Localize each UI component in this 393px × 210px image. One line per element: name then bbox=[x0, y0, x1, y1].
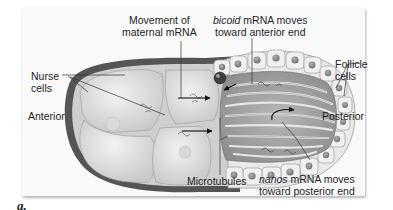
label-movement-line2: maternal mRNA bbox=[122, 26, 197, 38]
oocyte bbox=[214, 71, 337, 162]
nanos-line1-rest: mRNA moves bbox=[288, 173, 355, 185]
label-follicle-line1: Follicle bbox=[335, 58, 368, 70]
label-movement-line1: Movement of bbox=[122, 14, 197, 26]
label-nurse-cells: Nurse cells bbox=[31, 70, 59, 94]
bicoid-gene-name: bicoid bbox=[213, 14, 240, 26]
nurse-cells bbox=[80, 70, 219, 185]
label-follicle-line2: cells bbox=[335, 70, 368, 82]
label-anterior: Anterior bbox=[28, 110, 65, 122]
label-bicoid-mrna: bicoid mRNA moves toward anterior end bbox=[213, 14, 308, 38]
label-microtubules: Microtubules bbox=[187, 175, 247, 187]
label-bicoid-line2: toward anterior end bbox=[213, 26, 308, 38]
bicoid-line1-rest: mRNA moves bbox=[240, 14, 307, 26]
label-movement-maternal-mrna: Movement of maternal mRNA bbox=[122, 14, 197, 38]
label-posterior: Posterior bbox=[322, 110, 364, 122]
label-bicoid-line1: bicoid mRNA moves bbox=[213, 14, 308, 26]
label-nanos-mrna: nanos mRNA moves toward posterior end bbox=[259, 173, 355, 197]
figure-panel-label: a. bbox=[17, 198, 27, 210]
label-follicle-cells: Follicle cells bbox=[335, 58, 368, 82]
label-nanos-line2: toward posterior end bbox=[259, 185, 355, 197]
label-nurse-line1: Nurse bbox=[31, 70, 59, 82]
label-nurse-line2: cells bbox=[31, 82, 59, 94]
label-nanos-line1: nanos mRNA moves bbox=[259, 173, 355, 185]
nanos-gene-name: nanos bbox=[259, 173, 288, 185]
